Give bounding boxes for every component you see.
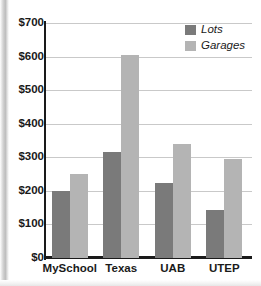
legend-item-lots: Lots bbox=[185, 23, 253, 37]
bar-garages-uab bbox=[173, 144, 191, 258]
y-axis-tick-label: $600 bbox=[2, 51, 44, 63]
y-axis-tick-label: $700 bbox=[2, 17, 44, 29]
y-axis-tick-label: $300 bbox=[2, 151, 44, 163]
bar-lots-myschool bbox=[52, 191, 70, 258]
legend-swatch-icon bbox=[185, 41, 196, 51]
y-axis-tick-labels: $0$100$200$300$400$500$600$700 bbox=[0, 0, 44, 286]
bar-chart: $0$100$200$300$400$500$600$700 MySchoolT… bbox=[0, 0, 261, 286]
bar-lots-utep bbox=[206, 210, 224, 258]
x-axis-category-labels: MySchoolTexasUABUTEP bbox=[44, 262, 254, 282]
legend-label: Garages bbox=[201, 40, 245, 52]
bars-layer bbox=[46, 23, 252, 258]
y-axis-tick-label: $200 bbox=[2, 185, 44, 197]
legend-label: Lots bbox=[201, 24, 223, 36]
y-axis-tick-label: $500 bbox=[2, 84, 44, 96]
bar-garages-texas bbox=[121, 55, 139, 258]
bar-garages-myschool bbox=[70, 174, 88, 258]
legend-swatch-icon bbox=[185, 25, 196, 35]
x-axis-label-utep: UTEP bbox=[184, 262, 261, 275]
chart-legend: LotsGarages bbox=[185, 23, 253, 55]
bar-lots-texas bbox=[103, 152, 121, 258]
bar-lots-uab bbox=[155, 183, 173, 258]
bar-garages-utep bbox=[224, 159, 242, 258]
legend-item-garages: Garages bbox=[185, 39, 253, 53]
y-axis-tick-label: $400 bbox=[2, 118, 44, 130]
y-axis-tick-label: $100 bbox=[2, 218, 44, 230]
